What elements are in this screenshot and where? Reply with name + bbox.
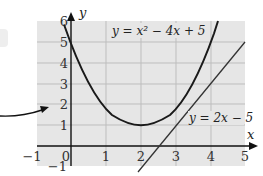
x-tick: 2 [137, 149, 145, 164]
x-axis-arrow-icon [249, 142, 258, 150]
graph-figure: y x −1 0 1 2 3 4 5 −1 1 2 3 4 5 6 y = x²… [0, 0, 263, 176]
x-tick: 4 [207, 149, 215, 164]
y-tick: 5 [60, 35, 68, 50]
y-tick: 3 [60, 77, 68, 92]
line-equation-label: y = 2x − 5 [188, 111, 253, 125]
y-tick: 1 [60, 118, 68, 133]
edge-tab [0, 29, 8, 47]
y-axis-arrow-icon [67, 12, 75, 21]
x-tick: −1 [22, 149, 41, 164]
x-axis-label: x [247, 127, 255, 142]
y-tick: 2 [60, 97, 68, 112]
x-tick: 3 [172, 149, 180, 164]
curve-equation-label: y = x² − 4x + 5 [111, 24, 205, 38]
y-tick: −1 [48, 159, 67, 174]
y-tick: 4 [60, 56, 68, 71]
x-tick: 5 [241, 149, 249, 164]
x-tick: 1 [102, 149, 110, 164]
y-axis-label: y [78, 5, 87, 20]
